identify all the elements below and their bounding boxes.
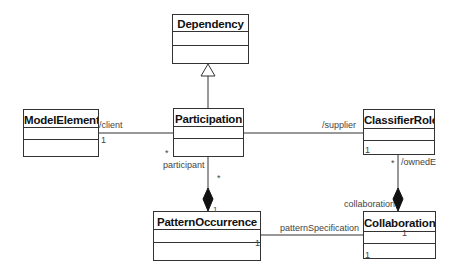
generalization-arrow-icon xyxy=(201,64,215,76)
class-model-element[interactable]: ModelElement xyxy=(23,109,99,157)
pattern-occurrence-multiplicity: 1 xyxy=(213,205,217,214)
attributes-compartment xyxy=(154,230,260,243)
composition-multiplicity: * xyxy=(217,173,221,183)
client-multiplicity: 1 xyxy=(101,135,106,145)
class-dependency[interactable]: Dependency xyxy=(172,14,249,64)
class-collaboration[interactable]: Collaboration xyxy=(363,211,436,259)
attributes-compartment xyxy=(173,32,248,46)
class-name: Dependency xyxy=(173,15,248,32)
class-participation[interactable]: Participation xyxy=(173,108,244,157)
class-name: Participation xyxy=(174,109,243,127)
attributes-compartment xyxy=(24,128,98,140)
class-name: ModelElement xyxy=(24,110,98,128)
class-name: Collaboration xyxy=(364,212,435,232)
supplier-role-label: /supplier xyxy=(322,120,356,130)
pattern-spec-right-multiplicity: 1 xyxy=(402,228,407,238)
attributes-compartment xyxy=(364,129,434,141)
attributes-compartment xyxy=(364,232,435,244)
class-name: PatternOccurrence xyxy=(154,212,260,230)
supplier-multiplicity: 1 xyxy=(365,145,370,155)
class-name: ClassifierRole xyxy=(364,110,434,129)
pattern-specification-label: patternSpecification xyxy=(280,223,359,233)
collaboration-role-label: collaboration xyxy=(344,199,395,209)
participant-role-label: participant xyxy=(163,160,205,170)
participant-multiplicity: * xyxy=(165,148,169,158)
pattern-spec-left-multiplicity: 1 xyxy=(255,238,260,248)
class-pattern-occurrence[interactable]: PatternOccurrence xyxy=(153,211,261,261)
attributes-compartment xyxy=(174,127,243,139)
composition-diamond-icon xyxy=(203,188,213,211)
class-classifier-role[interactable]: ClassifierRole xyxy=(363,109,435,155)
owned-role-label: /ownedE xyxy=(401,157,436,167)
owned-multiplicity: * xyxy=(391,158,395,168)
collaboration-bottom-multiplicity: 1 xyxy=(365,250,370,260)
client-role-label: /client xyxy=(99,120,123,130)
